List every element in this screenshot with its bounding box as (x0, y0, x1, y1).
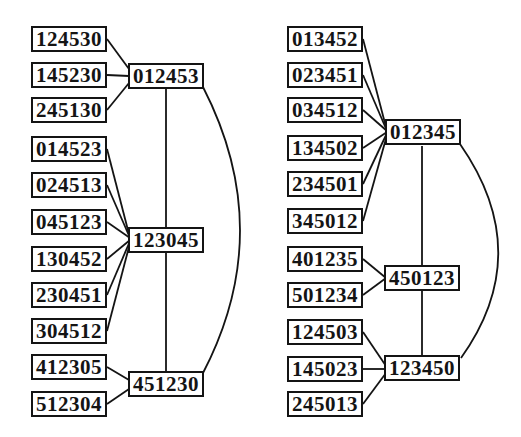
edge-line (107, 75, 129, 76)
graph-node: 512304 (31, 391, 107, 417)
graph-node: 304512 (31, 318, 107, 344)
graph-node: 145230 (31, 62, 107, 88)
graph-hub-node: 451230 (128, 371, 204, 397)
edge-line (107, 83, 129, 110)
graph-node: 045123 (31, 209, 107, 235)
graph-node: 014523 (31, 136, 107, 162)
graph-node: 230451 (31, 282, 107, 308)
graph-node: 130452 (31, 246, 107, 272)
graph-node: 124503 (287, 319, 363, 345)
graph-node: 034512 (287, 97, 363, 123)
graph-node: 412305 (31, 354, 107, 380)
graph-node: 345012 (287, 208, 363, 234)
graph-hub-node: 450123 (384, 265, 460, 291)
edge-line (107, 367, 129, 380)
edge-line (107, 389, 129, 404)
graph-node: 134502 (287, 135, 363, 161)
graph-node: 013452 (287, 26, 363, 52)
graph-node: 023451 (287, 62, 363, 88)
edge-line (363, 332, 386, 366)
graph-hub-node: 123450 (384, 355, 460, 381)
graph-node: 024513 (31, 172, 107, 198)
figure-canvas: 124530 145230 245130 014523 024513 04512… (0, 0, 521, 437)
graph-node: 401235 (287, 246, 363, 272)
edge-line (363, 278, 386, 295)
edge-line (363, 259, 386, 278)
graph-node: 245130 (31, 97, 107, 123)
graph-hub-node: 012453 (128, 63, 204, 89)
graph-node: 501234 (287, 282, 363, 308)
hub-link-arc (203, 87, 240, 373)
edge-line (107, 39, 129, 69)
graph-node: 124530 (31, 26, 107, 52)
graph-node: 234501 (287, 171, 363, 197)
graph-hub-node: 123045 (128, 227, 204, 253)
hub-link-arc (460, 144, 498, 358)
graph-hub-node: 012345 (385, 119, 461, 145)
graph-node: 245013 (287, 391, 363, 417)
graph-node: 145023 (287, 356, 363, 382)
edge-line (363, 373, 386, 404)
